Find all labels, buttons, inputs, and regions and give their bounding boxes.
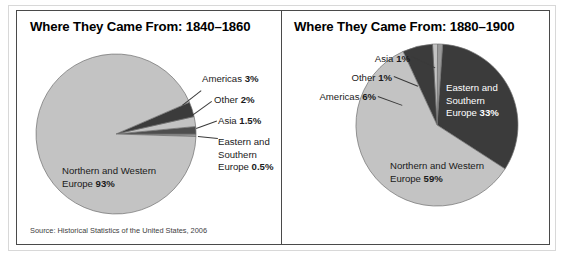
label-line-1: Other — [214, 94, 238, 105]
pie-chart-left — [34, 52, 198, 216]
label-northern-western-europe-left: Northern and Western Europe 93% — [62, 165, 156, 190]
label-line-3: Europe — [446, 107, 477, 118]
label-line-2: Europe — [62, 178, 93, 189]
figure-container: Where They Came From: 1840–1860 Northern… — [0, 0, 564, 257]
label-line-3: Europe — [218, 161, 249, 172]
label-value: 93% — [96, 178, 115, 189]
label-value: 0.5% — [252, 161, 274, 172]
label-value: 6% — [362, 91, 376, 102]
label-eastern-southern-europe-right: Eastern and Southern Europe 33% — [446, 82, 499, 120]
label-line-1: Eastern and — [446, 82, 498, 93]
label-line-1: Eastern and — [218, 136, 270, 147]
label-value: 1.5% — [239, 115, 261, 126]
leader-line-asia-left — [196, 120, 217, 128]
label-line-1: Other — [351, 72, 375, 83]
label-northern-western-europe-right: Northern and Western Europe 59% — [390, 160, 484, 185]
label-value: 3% — [245, 73, 259, 84]
label-asia-right: Asia 1% — [344, 53, 410, 66]
label-value: 59% — [424, 173, 443, 184]
label-line-1: Americas — [202, 73, 242, 84]
label-line-1: Asia — [218, 115, 237, 126]
label-value: 2% — [241, 94, 255, 105]
pie-svg-left — [34, 52, 198, 216]
source-note: Source: Historical Statistics of the Uni… — [30, 226, 207, 235]
label-americas-right: Americas 6% — [296, 91, 376, 104]
label-line-1: Northern and Western — [390, 160, 484, 171]
label-value: 33% — [480, 107, 499, 118]
chart-panel-1840-1860: Where They Came From: 1840–1860 Northern… — [16, 10, 282, 245]
label-americas-left: Americas 3% — [202, 73, 259, 86]
label-value: 1% — [396, 53, 410, 64]
chart-title-left: Where They Came From: 1840–1860 — [30, 19, 250, 34]
label-asia-left: Asia 1.5% — [218, 115, 261, 128]
label-line-2: Southern — [218, 149, 257, 160]
chart-title-right: Where They Came From: 1880–1900 — [294, 19, 514, 34]
label-other-right: Other 1% — [326, 72, 392, 85]
label-other-left: Other 2% — [214, 94, 255, 107]
leader-line-eastern-southern-left — [198, 136, 218, 139]
label-line-2: Southern — [446, 95, 485, 106]
label-line-1: Americas — [319, 91, 359, 102]
label-value: 1% — [378, 72, 392, 83]
label-line-1: Northern and Western — [62, 165, 156, 176]
label-line-2: Europe — [390, 173, 421, 184]
label-line-1: Asia — [375, 53, 394, 64]
label-eastern-southern-europe-left: Eastern and Southern Europe 0.5% — [218, 136, 273, 174]
chart-panel-1880-1900: Where They Came From: 1880–1900 Asia 1% — [282, 10, 550, 245]
